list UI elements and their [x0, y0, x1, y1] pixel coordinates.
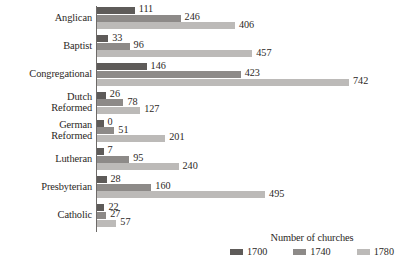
- bar-1740-anglican: [97, 15, 181, 22]
- category-label-anglican: Anglican: [0, 13, 92, 24]
- legend-swatch-icon: [357, 249, 370, 255]
- bar-value-label: 457: [256, 48, 271, 58]
- bar-value-label: 95: [133, 153, 143, 163]
- bar-value-label: 146: [151, 61, 166, 71]
- legend-title: Number of churches: [228, 232, 396, 244]
- legend-label: 1740: [310, 247, 330, 257]
- category-label-presbyterian: Presbyterian: [0, 182, 92, 193]
- bar-value-label: 423: [245, 68, 260, 78]
- bar-1700-dutch-reformed: [97, 92, 106, 99]
- legend-swatch-icon: [230, 249, 243, 255]
- legend-swatch-icon: [293, 249, 306, 255]
- bar-value-label: 33: [112, 33, 122, 43]
- legend-item-1740[interactable]: 1740: [293, 247, 330, 257]
- bar-1740-lutheran: [97, 156, 129, 163]
- category-label-congregational: Congregational: [0, 69, 92, 80]
- category-label-dutch-reformed: Dutch Reformed: [0, 92, 92, 113]
- bar-1740-catholic: [97, 212, 106, 219]
- bar-1740-dutch-reformed: [97, 99, 123, 106]
- bar-1740-german-reformed: [97, 127, 114, 134]
- bar-value-label: 28: [111, 174, 121, 184]
- bar-value-label: 26: [110, 89, 120, 99]
- bar-value-label: 495: [269, 189, 284, 199]
- bar-value-label: 742: [353, 76, 368, 86]
- plot-area: Anglican111246406Baptist3396457Congregat…: [0, 0, 396, 236]
- bar-value-label: 57: [120, 217, 130, 227]
- bar-value-label: 160: [155, 181, 170, 191]
- bar-1780-anglican: [97, 22, 235, 29]
- bar-1700-baptist: [97, 35, 108, 42]
- bar-1700-lutheran: [97, 148, 104, 155]
- bar-value-label: 111: [139, 4, 154, 14]
- bar-1780-dutch-reformed: [97, 107, 140, 114]
- legend-item-1700[interactable]: 1700: [230, 247, 267, 257]
- legend-item-1780[interactable]: 1780: [357, 247, 394, 257]
- bar-1780-german-reformed: [97, 135, 165, 142]
- bar-1700-congregational: [97, 63, 147, 70]
- bar-1740-congregational: [97, 71, 241, 78]
- category-label-german-reformed: German Reformed: [0, 120, 92, 141]
- bar-value-label: 78: [127, 97, 137, 107]
- category-label-lutheran: Lutheran: [0, 154, 92, 165]
- bar-value-label: 201: [169, 132, 184, 142]
- category-label-catholic: Catholic: [0, 210, 92, 221]
- bar-value-label: 7: [108, 145, 113, 155]
- bar-1780-catholic: [97, 220, 116, 227]
- bar-value-label: 27: [110, 209, 120, 219]
- category-label-baptist: Baptist: [0, 41, 92, 52]
- legend-label: 1780: [374, 247, 394, 257]
- legend-label: 1700: [247, 247, 267, 257]
- bar-value-label: 0: [108, 117, 113, 127]
- bar-value-label: 127: [144, 104, 159, 114]
- bar-value-label: 406: [239, 20, 254, 30]
- bar-1700-catholic: [97, 204, 104, 211]
- bar-value-label: 240: [183, 161, 198, 171]
- bar-value-label: 51: [118, 125, 128, 135]
- bar-value-label: 246: [185, 12, 200, 22]
- bar-1780-baptist: [97, 50, 252, 57]
- legend-item-list: 170017401780: [228, 247, 396, 257]
- bar-1740-presbyterian: [97, 184, 151, 191]
- bar-1700-anglican: [97, 7, 135, 14]
- bar-1780-congregational: [97, 79, 349, 86]
- chart-legend: Number of churches 170017401780: [228, 232, 396, 257]
- bar-chart: Anglican111246406Baptist3396457Congregat…: [0, 0, 396, 275]
- bar-1740-baptist: [97, 43, 130, 50]
- bar-1700-presbyterian: [97, 176, 107, 183]
- bar-value-label: 96: [134, 40, 144, 50]
- bar-1700-german-reformed: [97, 120, 104, 127]
- bar-1780-lutheran: [97, 163, 179, 170]
- bar-1780-presbyterian: [97, 191, 265, 198]
